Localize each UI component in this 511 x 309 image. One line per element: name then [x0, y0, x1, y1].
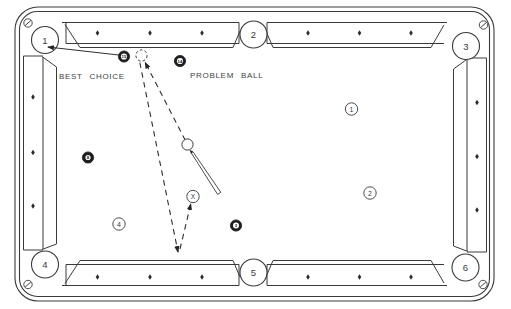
ball-14-number: 14	[178, 59, 183, 64]
position-marker-1-label: 1	[350, 106, 354, 113]
pool-table-diagram: 1 2 3 4 5 6 15 14 8 3	[0, 0, 511, 309]
pocket-5-number: 5	[251, 267, 256, 278]
pocket-1-number: 1	[42, 35, 47, 46]
ghost-ball-outline	[136, 50, 147, 61]
position-marker-4-label: 4	[117, 221, 121, 228]
pocket-4-number: 4	[42, 259, 47, 270]
problem-ball-label: PROBLEM BALL	[190, 71, 263, 80]
pool-table-svg: 1 2 3 4 5 6 15 14 8 3	[0, 0, 511, 309]
pocket-3-number: 3	[463, 41, 468, 52]
best-choice-label: BEST CHOICE	[59, 72, 125, 81]
pocket-6-number: 6	[463, 262, 468, 273]
ball-15-number: 15	[122, 54, 127, 59]
target-x-marker-label: X	[191, 193, 196, 200]
position-marker-2-label: 2	[368, 190, 372, 197]
pocket-2-number: 2	[251, 29, 256, 40]
cue-ball	[182, 139, 193, 150]
